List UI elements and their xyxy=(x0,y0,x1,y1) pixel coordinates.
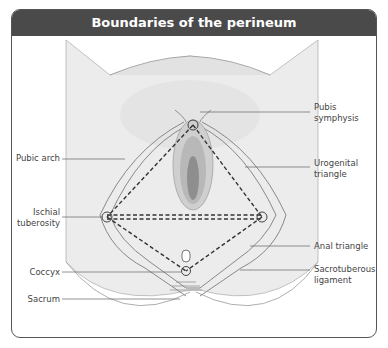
label-anal-triangle: Anal triangle xyxy=(314,241,368,252)
label-pubis-symphysis: Pubis symphysis xyxy=(314,102,359,123)
label-ischial-tuberosity: Ischial tuberosity xyxy=(10,207,60,228)
label-sacrotuberous-ligament: Sacrotuberous ligament xyxy=(314,264,375,285)
label-sacrum: Sacrum xyxy=(10,294,60,305)
label-pubic-arch: Pubic arch xyxy=(10,153,60,164)
label-coccyx: Coccyx xyxy=(10,267,60,278)
label-urogenital-triangle: Urogenital triangle xyxy=(314,158,358,179)
